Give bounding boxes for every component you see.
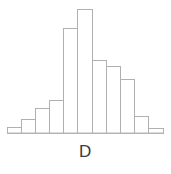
histogram-bar: [35, 108, 49, 133]
histogram-chart: [0, 0, 171, 140]
histogram-bar: [92, 60, 106, 133]
histogram-bar: [64, 28, 78, 133]
plot-area: [0, 0, 171, 140]
bars-group: [7, 9, 163, 133]
histogram-bar: [135, 116, 149, 133]
histogram-bar: [7, 127, 21, 133]
chart-caption-label: D: [0, 142, 171, 162]
histogram-bar: [149, 128, 163, 133]
histogram-bar: [120, 79, 134, 133]
histogram-bar: [106, 66, 120, 133]
histogram-bar: [78, 9, 92, 133]
histogram-bar: [50, 100, 64, 133]
histogram-bar: [21, 119, 35, 133]
histogram-figure: D: [0, 0, 171, 174]
